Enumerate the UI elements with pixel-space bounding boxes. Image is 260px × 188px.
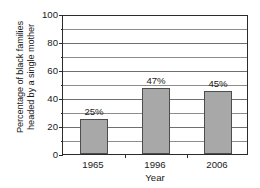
- y-axis-title-line-1: Percentage of black families: [15, 21, 27, 133]
- x-axis-separator-tick: [125, 154, 126, 158]
- bar-group: 47%: [125, 15, 187, 154]
- y-axis-tick-label: 80: [36, 38, 58, 48]
- x-axis-tick-label: 1996: [144, 160, 165, 170]
- bar-group: 45%: [187, 15, 249, 154]
- y-axis-tick-major: [59, 155, 63, 156]
- y-axis-tick-label: 40: [36, 94, 58, 104]
- bar-chart-figure: Percentage of black families headed by a…: [0, 0, 260, 188]
- bar: [142, 88, 170, 154]
- x-axis-tick-labels: 196519962006: [62, 160, 248, 172]
- y-axis-tick-label: 0: [36, 150, 58, 160]
- bar-value-label: 25%: [84, 107, 103, 117]
- x-axis-tick-label: 2006: [206, 160, 227, 170]
- bar-group: 25%: [63, 15, 125, 154]
- bar-value-label: 45%: [208, 79, 227, 89]
- y-axis-tick-label: 20: [36, 122, 58, 132]
- x-axis-separator-tick: [187, 154, 188, 158]
- bar: [80, 119, 108, 154]
- plot-area: 25%47%45%: [62, 15, 248, 155]
- x-axis-tick-label: 1965: [82, 160, 103, 170]
- y-axis-tick-label: 100: [36, 10, 58, 20]
- bars-layer: 25%47%45%: [63, 15, 247, 154]
- bar-value-label: 47%: [146, 76, 165, 86]
- y-axis-tick-labels: 020406080100: [36, 15, 58, 155]
- y-axis-tick-label: 60: [36, 66, 58, 76]
- bar: [204, 91, 232, 154]
- x-axis-title: Year: [62, 173, 248, 183]
